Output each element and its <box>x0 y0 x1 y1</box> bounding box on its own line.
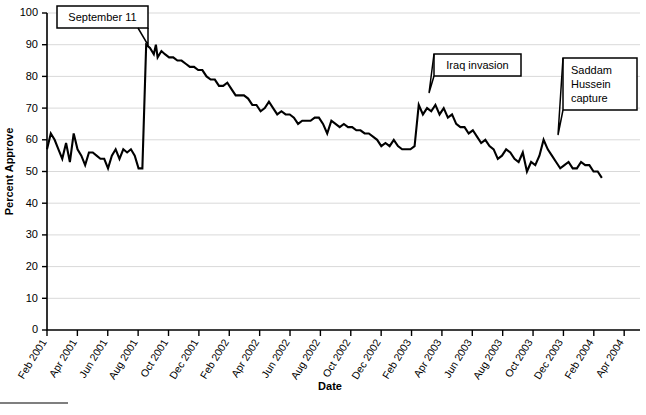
x-tick-label: Feb 2001 <box>15 337 49 381</box>
y-tick-label: 70 <box>26 102 38 114</box>
x-tick-label: Oct 2003 <box>502 337 535 380</box>
annotation-label: September 11 <box>68 11 136 23</box>
annotation-label: Saddam <box>571 64 612 76</box>
y-tick-label: 10 <box>26 292 38 304</box>
y-tick-label: 0 <box>32 323 38 335</box>
y-tick-label: 40 <box>26 197 38 209</box>
y-tick-label: 60 <box>26 133 38 145</box>
y-tick-label: 100 <box>20 6 38 18</box>
x-tick-label: Feb 2003 <box>380 337 414 381</box>
y-tick-label: 50 <box>26 165 38 177</box>
annotation-pointer <box>138 28 148 45</box>
y-tick-label: 90 <box>26 38 38 50</box>
annotation-label: Iraq invasion <box>446 59 508 71</box>
annotation-label: capture <box>571 92 608 104</box>
approval-rating-chart: 0102030405060708090100Percent ApproveFeb… <box>0 0 646 415</box>
x-tick-label: Apr 2002 <box>229 337 262 380</box>
x-tick-label: Apr 2004 <box>593 337 626 380</box>
x-tick-label: Jun 2002 <box>259 337 292 380</box>
x-tick-label: Jun 2001 <box>76 337 109 380</box>
x-axis-title: Date <box>318 380 342 392</box>
x-tick-label: Aug 2002 <box>288 337 322 382</box>
annotation-iraq-invasion: Iraq invasion <box>429 54 521 93</box>
y-axis-title: Percent Approve <box>3 128 15 216</box>
x-tick-label: Oct 2001 <box>137 337 170 380</box>
x-tick-label: Feb 2002 <box>197 337 231 381</box>
x-tick-label: Feb 2004 <box>562 337 596 381</box>
y-axis: 0102030405060708090100 <box>20 6 47 335</box>
x-tick-label: Apr 2003 <box>411 337 444 380</box>
x-tick-label: Jun 2003 <box>441 337 474 380</box>
y-tick-label: 20 <box>26 260 38 272</box>
x-tick-label: Aug 2001 <box>106 337 140 382</box>
annotation-label: Hussein <box>571 78 611 90</box>
x-tick-label: Aug 2003 <box>470 337 504 382</box>
chart-canvas: 0102030405060708090100Percent ApproveFeb… <box>0 0 646 415</box>
x-axis: Feb 2001Apr 2001Jun 2001Aug 2001Oct 2001… <box>15 330 626 381</box>
x-tick-label: Dec 2002 <box>349 337 383 382</box>
x-tick-label: Apr 2001 <box>46 337 79 380</box>
y-tick-label: 30 <box>26 228 38 240</box>
x-tick-label: Oct 2002 <box>320 337 353 380</box>
annotation-saddam-hussein-capture: SaddamHusseincapture <box>558 58 637 135</box>
x-tick-label: Dec 2001 <box>167 337 201 382</box>
x-tick-label: Dec 2003 <box>531 337 565 382</box>
annotation-september-11: September 11 <box>57 6 148 45</box>
y-tick-label: 80 <box>26 70 38 82</box>
